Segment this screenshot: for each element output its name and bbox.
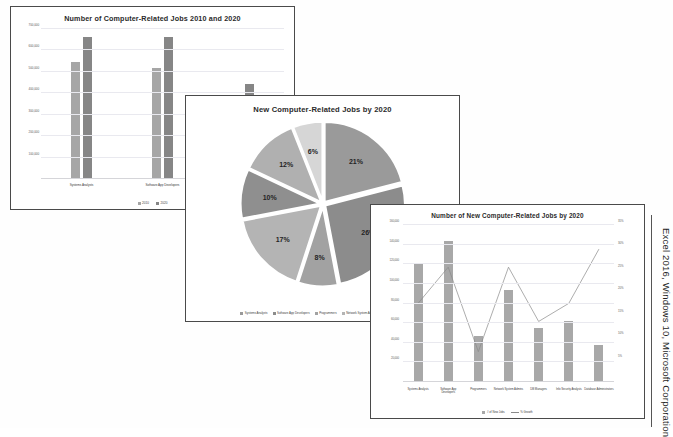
chart1-bar-2020 — [164, 37, 173, 179]
legend-swatch-icon — [342, 312, 345, 315]
chart2-title: New Computer-Related Jobs by 2020 — [186, 105, 459, 114]
chart3-category-label: Info Security Analysts — [554, 388, 584, 402]
chart1-bar-2010 — [71, 62, 80, 179]
chart1-y-tick: 400,000 — [29, 87, 39, 91]
chart1-bar-2020 — [83, 37, 92, 179]
chart3-right-tick: 20% — [618, 286, 623, 290]
chart3-legend-item: % Growth — [511, 410, 533, 414]
chart1-y-tick: 500,000 — [29, 66, 39, 70]
chart1-legend-label: 2020 — [161, 201, 168, 205]
chart1-y-tick: 600,000 — [29, 44, 39, 48]
chart1-y-tick: 100,000 — [29, 152, 39, 156]
chart3-legend: # of New Jobs% Growth — [371, 410, 644, 414]
chart3-right-tick: 25% — [618, 264, 623, 268]
chart3-right-tick: 30% — [618, 241, 623, 245]
legend-swatch-icon — [273, 312, 276, 315]
chart2-legend-label: Software App Developers — [277, 311, 310, 315]
chart2-legend-item: Programmers — [315, 311, 337, 315]
growth-polyline — [418, 249, 599, 351]
pie-slice-label-0: 21% — [348, 158, 363, 165]
pie-slice-label-2: 8% — [314, 254, 325, 261]
chart3-left-tick: 160,000 — [390, 219, 399, 223]
pie-slice-label-5: 12% — [279, 161, 294, 168]
chart1-y-tick: 300,000 — [29, 109, 39, 113]
chart3-left-tick: 120,000 — [390, 258, 399, 262]
chart3-category-label: Programmers — [463, 388, 493, 402]
chart3-right-tick: 10% — [618, 331, 623, 335]
chart3-legend-label: # of New Jobs — [487, 410, 505, 414]
chart3-legend-item: # of New Jobs — [482, 410, 504, 414]
chart3-category-labels: Systems AnalystsSoftware App DevelopersP… — [403, 388, 614, 402]
chart3-category-label: Network System Admins — [493, 388, 523, 402]
chart-card-combo: Number of New Computer-Related Jobs by 2… — [370, 204, 645, 419]
legend-swatch-icon — [156, 202, 159, 205]
chart1-title: Number of Computer-Related Jobs 2010 and… — [11, 14, 294, 23]
chart3-title: Number of New Computer-Related Jobs by 2… — [371, 212, 644, 219]
chart3-right-tick: 35% — [618, 219, 623, 223]
chart2-legend-label: Programmers — [319, 311, 337, 315]
chart3-left-tick: 40,000 — [391, 337, 399, 341]
pie-slice-label-3: 17% — [275, 236, 290, 243]
chart1-bar-2010 — [152, 68, 161, 179]
chart1-legend-item: 2020 — [156, 201, 167, 205]
chart3-category-label: Software App Developers — [433, 388, 463, 402]
chart3-plot-area — [403, 225, 614, 382]
chart3-category-label: Systems Analysts — [403, 388, 433, 402]
chart3-right-y-axis: 5%10%15%20%25%30%35% — [615, 225, 642, 382]
chart3-left-tick: 80,000 — [391, 298, 399, 302]
chart3-right-tick: 5% — [618, 354, 622, 358]
chart3-legend-label: % Growth — [520, 410, 532, 414]
chart3-left-tick: 140,000 — [390, 239, 399, 243]
legend-swatch-icon — [482, 411, 485, 414]
chart1-legend-item: 2010 — [138, 201, 149, 205]
chart3-left-y-axis: 20,00040,00060,00080,000100,000120,00014… — [373, 225, 402, 382]
source-caption: Excel 2016, Windows 10, Microsoft Corpor… — [661, 228, 672, 437]
legend-line-icon — [511, 412, 519, 413]
pie-slice-label-6: 6% — [307, 148, 318, 155]
chart3-axis-baseline — [403, 381, 614, 382]
chart3-right-tick: 15% — [618, 309, 623, 313]
pie-slice-label-4: 10% — [262, 194, 277, 201]
chart2-legend-label: Systems Analysts — [245, 311, 268, 315]
chart3-growth-line — [403, 225, 614, 436]
caption-divider — [651, 215, 652, 427]
chart3-left-tick: 100,000 — [390, 278, 399, 282]
chart1-y-tick: 700,000 — [29, 23, 39, 27]
chart2-legend-item: Systems Analysts — [240, 311, 267, 315]
legend-swatch-icon — [138, 202, 141, 205]
chart1-y-axis: 100,000200,000300,000400,000500,000600,0… — [15, 29, 41, 179]
chart1-category-label: Systems Analysts — [52, 183, 112, 193]
chart3-category-label: Database Administrators — [584, 388, 614, 402]
chart1-legend-label: 2010 — [142, 201, 149, 205]
chart1-category-label: Software App Developers — [133, 183, 193, 193]
chart1-y-tick: 200,000 — [29, 130, 39, 134]
legend-swatch-icon — [315, 312, 318, 315]
chart3-category-label: DB Managers — [524, 388, 554, 402]
chart2-legend-item: Software App Developers — [273, 311, 310, 315]
chart3-left-tick: 20,000 — [391, 356, 399, 360]
legend-swatch-icon — [240, 312, 243, 315]
chart3-left-tick: 60,000 — [391, 317, 399, 321]
